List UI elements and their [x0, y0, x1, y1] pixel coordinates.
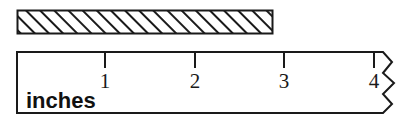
figure-canvas: 1 2 3 4 inches: [0, 0, 415, 121]
tick-label-2: 2: [190, 69, 201, 93]
ruler-figure: 1 2 3 4 inches: [0, 0, 415, 121]
tick-label-4: 4: [369, 69, 380, 93]
ruler-unit-label: inches: [26, 88, 96, 113]
ruler: 1 2 3 4 inches: [17, 52, 394, 113]
tick-label-3: 3: [279, 69, 290, 93]
hatched-bar: [18, 11, 273, 34]
tick-label-1: 1: [100, 69, 111, 93]
hatched-bar-fill: [18, 11, 272, 33]
